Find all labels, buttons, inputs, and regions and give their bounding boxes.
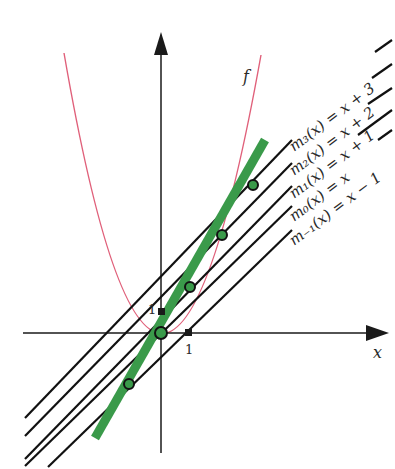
curve-label-f: f (242, 67, 252, 86)
point-m3 (248, 180, 258, 190)
line-m2 (25, 163, 292, 436)
x-tick-label: 1 (185, 342, 193, 357)
point-m-1 (124, 379, 134, 389)
line-labels: m₃(x) = x + 3 m₂(x) = x + 2 m₁(x) = x + … (286, 79, 385, 249)
x-tick-1 (185, 329, 192, 336)
point-m1 (185, 282, 195, 292)
x-axis-arrow-icon (366, 325, 389, 341)
tangent-line (95, 140, 265, 438)
function-diagram: 1 1 x f m₃(x) = x + 3 m₂(x) = x + 2 m₁(x… (0, 0, 395, 469)
x-axis-label: x (373, 343, 382, 362)
y-tick-1 (158, 308, 165, 315)
diagram-canvas: 1 1 x f m₃(x) = x + 3 m₂(x) = x + 2 m₁(x… (0, 0, 395, 469)
y-axis-arrow-icon (154, 32, 168, 55)
point-m0 (155, 327, 167, 339)
y-tick-label: 1 (148, 302, 156, 317)
point-m2 (217, 230, 227, 240)
